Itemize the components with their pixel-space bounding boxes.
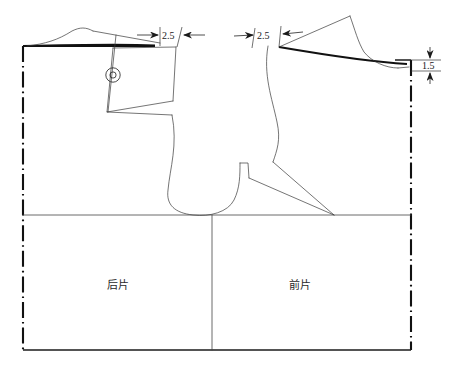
sleeve-underarm-curve (168, 115, 240, 215)
pivot-point-icon (106, 68, 120, 82)
sleeve-right-upper-edge (240, 163, 249, 178)
dimension-label-back-2-5: 2.5 (162, 30, 175, 41)
back-yoke-panel (107, 48, 173, 112)
back-neckline-curve (23, 45, 155, 46)
label-front-piece: 前片 (289, 278, 311, 292)
back-yoke-right-edge (173, 47, 176, 101)
front-dart-diagonal-short (249, 178, 334, 215)
back-armhole-notch (107, 112, 172, 115)
dimension-label-front-2-5: 2.5 (257, 30, 270, 41)
back-collar-top-edge (93, 31, 160, 43)
label-back-piece: 后片 (107, 279, 129, 292)
pattern-drawing-canvas: 2.5 2.5 1.5 后片 前片 (0, 0, 451, 371)
back-collar-raised-curve (27, 28, 93, 46)
front-collar-top-edge (279, 16, 350, 47)
front-neckline-curve (279, 47, 407, 64)
dimension-front-1-5: 1.5 (411, 47, 441, 84)
front-dart-diagonal-long (273, 162, 334, 215)
back-shoulder-slant-line (113, 47, 176, 48)
front-side-seam-curve (267, 46, 279, 162)
dimension-back-2-5: 2.5 (137, 27, 205, 47)
front-collar-lower-return (398, 67, 409, 68)
dimension-front-2-5: 2.5 (234, 26, 303, 48)
dimension-label-front-1-5: 1.5 (422, 60, 435, 71)
pattern-diagram: 2.5 2.5 1.5 后片 前片 (0, 0, 451, 371)
